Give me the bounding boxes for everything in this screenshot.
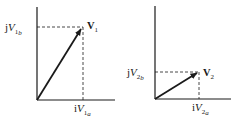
vector-label: V2 (203, 67, 215, 81)
x-component-label: iV1a (74, 102, 91, 118)
vector-arrow (155, 73, 197, 99)
y-component-label: jV2b (126, 66, 144, 82)
x-component-label: iV2a (192, 101, 209, 117)
panel-v1: jV1b V1 iV1a (4, 7, 115, 118)
panel-v2: jV2b V2 iV2a (126, 6, 231, 117)
y-component-label: jV1b (4, 21, 22, 37)
phasor-diagram-canvas: jV1b V1 iV1a jV2b V2 iV2a (0, 0, 243, 121)
vector-label: V1 (87, 20, 99, 34)
vector-arrow (37, 29, 81, 100)
